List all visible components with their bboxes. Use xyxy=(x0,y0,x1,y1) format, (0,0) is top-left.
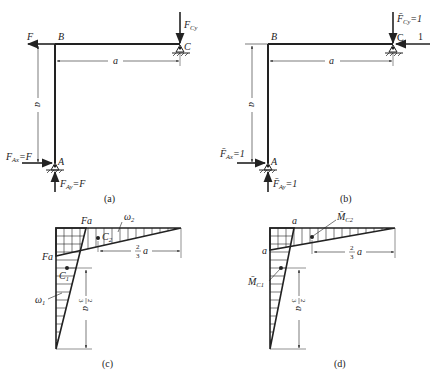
dim-v-label: a xyxy=(33,102,44,107)
dim-h-label: a xyxy=(329,55,334,66)
svg-text:a: a xyxy=(81,306,92,311)
svg-text:3: 3 xyxy=(136,252,140,260)
support-C-icon xyxy=(385,45,403,66)
reaction-FAy-label: FAy=F xyxy=(59,178,86,190)
reaction-FCy-label: FCy xyxy=(183,19,197,31)
svg-text:3: 3 xyxy=(350,253,354,261)
node-B-label: B xyxy=(271,31,277,42)
svg-text:2: 2 xyxy=(299,299,307,303)
centroid-C2-dot xyxy=(96,236,100,240)
node-A-label: A xyxy=(270,156,278,167)
svg-text:a: a xyxy=(143,245,148,256)
panel-b-frame: B C F̄Cy=1 1 a a A F̄Ax=1 F̄Ay=1 (b) xyxy=(219,12,430,205)
MC2-label: M̄C2 xyxy=(336,211,354,223)
moment-label-left: a xyxy=(262,245,267,256)
caption-c: (c) xyxy=(102,358,113,370)
caption-b: (b) xyxy=(340,193,352,205)
moment-area-w1 xyxy=(56,228,86,349)
centroid-C2-label: C2 xyxy=(102,231,113,243)
dim-v-fraction: 2 3 a xyxy=(290,298,307,311)
svg-text:2: 2 xyxy=(136,243,140,251)
unit-moment-area-horizontal xyxy=(270,228,395,250)
svg-text:3: 3 xyxy=(290,299,298,303)
dim-v-label: a xyxy=(247,102,258,107)
moment-label-left: Fa xyxy=(41,251,53,262)
reaction-FAx-label: FAx=F xyxy=(5,151,33,163)
force-F-label: F xyxy=(26,31,34,42)
panel-c-moment-diagram: Fa Fa C2 C1 ω2 ω1 2 3 a 2 3 a xyxy=(35,211,181,370)
MC1-label: M̄C1 xyxy=(247,276,264,288)
structural-analysis-figure: F B C FCy a a A FAx=F FAy=F xyxy=(0,0,441,376)
reaction-FCy-label: F̄Cy=1 xyxy=(396,13,422,25)
caption-d: (d) xyxy=(334,358,346,370)
svg-text:3: 3 xyxy=(77,299,85,303)
w1-leader xyxy=(48,293,62,299)
area-w1-label: ω1 xyxy=(35,294,45,306)
area-w2-label: ω2 xyxy=(124,211,135,223)
caption-a: (a) xyxy=(104,193,115,205)
svg-text:a: a xyxy=(294,306,305,311)
node-B-label: B xyxy=(58,31,64,42)
svg-text:2: 2 xyxy=(350,244,354,252)
reaction-FAy-label: F̄Ay=1 xyxy=(272,178,297,190)
node-A-label: A xyxy=(57,156,65,167)
dim-h-fraction: 2 3 a xyxy=(135,243,148,260)
dim-h-fraction: 2 3 a xyxy=(349,244,362,261)
moment-label-top: Fa xyxy=(80,215,92,226)
centroid-C1-label: C1 xyxy=(59,270,69,282)
reaction-FAx-label: F̄Ax=1 xyxy=(219,148,245,160)
moment-label-top: a xyxy=(292,215,297,226)
svg-text:a: a xyxy=(357,246,362,257)
dim-h-label: a xyxy=(113,55,118,66)
panel-a-frame: F B C FCy a a A FAx=F FAy=F xyxy=(5,12,197,205)
node-C-label: C xyxy=(184,41,191,52)
moment-area-w2 xyxy=(56,228,181,256)
panel-d-unit-moment-diagram: a a M̄C2 M̄C1 2 3 a 2 3 a (d) xyxy=(247,211,395,370)
svg-text:2: 2 xyxy=(86,299,94,303)
dim-v-fraction: 2 3 a xyxy=(77,298,94,311)
unit-load-label: 1 xyxy=(418,31,423,42)
node-C-label: C xyxy=(397,32,404,43)
